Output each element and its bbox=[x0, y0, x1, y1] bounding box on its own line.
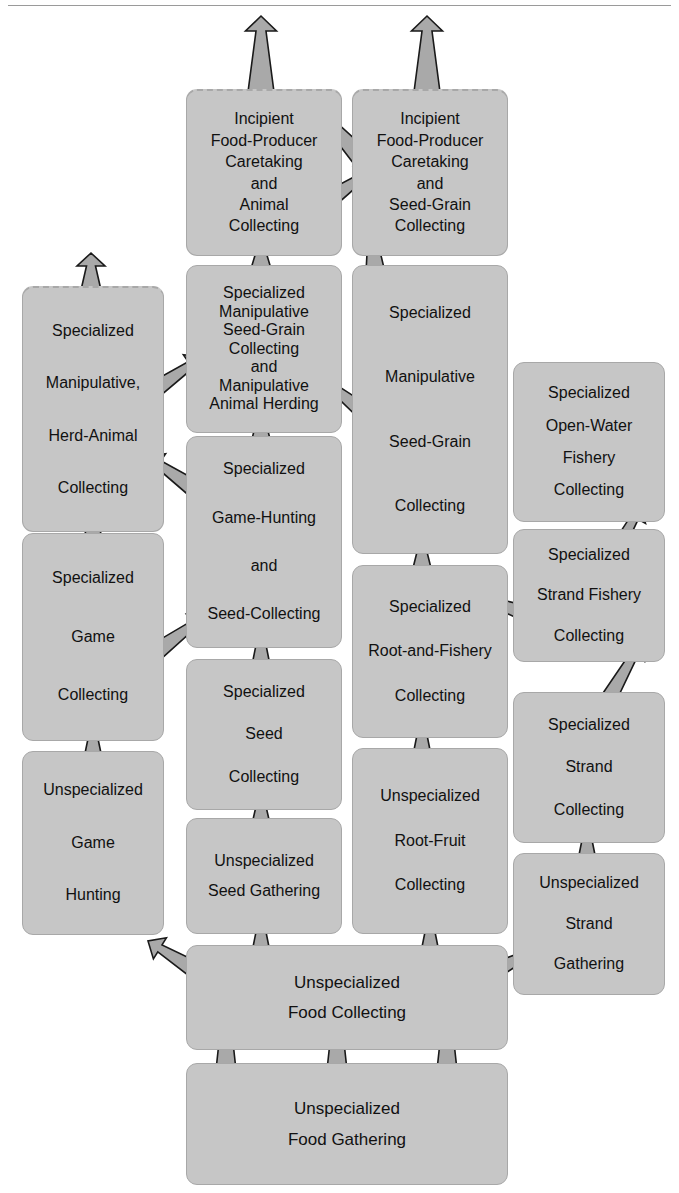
node-label-line: Incipient bbox=[400, 111, 460, 127]
node-label-line: Specialized bbox=[223, 285, 305, 301]
node-specialized-root-and-fishery-collecting: SpecializedRoot-and-FisheryCollecting bbox=[352, 565, 508, 738]
arrow-to-top-right-offpage bbox=[412, 16, 443, 92]
node-label-line: Gathering bbox=[554, 956, 624, 972]
node-label-line: Collecting bbox=[58, 687, 128, 703]
node-label-line: Strand Fishery bbox=[537, 587, 641, 603]
node-label-line: Incipient bbox=[234, 111, 294, 127]
node-label-line: Specialized bbox=[52, 323, 134, 339]
node-label-line: Specialized bbox=[223, 684, 305, 700]
node-label-line: Manipulative, bbox=[46, 375, 140, 391]
diagram-canvas: IncipientFood-ProducerCaretakingandAnima… bbox=[0, 0, 679, 1193]
arrow-herd-animal-to-offpage bbox=[77, 253, 105, 290]
node-label-line: Seed-Grain bbox=[389, 434, 471, 450]
node-label-line: Seed bbox=[245, 726, 282, 742]
node-label-line: Collecting bbox=[554, 482, 624, 498]
node-label-line: and bbox=[251, 558, 278, 574]
node-label-line: Specialized bbox=[389, 599, 471, 615]
node-unspecialized-seed-gathering: UnspecializedSeed Gathering bbox=[186, 818, 342, 934]
node-incipient-food-producer-seed-grain-collecting: IncipientFood-ProducerCaretakingandSeed-… bbox=[352, 89, 508, 256]
node-label-line: Collecting bbox=[229, 769, 299, 785]
node-label-line: Collecting bbox=[229, 341, 299, 357]
node-label-line: Unspecialized bbox=[214, 853, 314, 869]
node-specialized-open-water-fishery-collecting: SpecializedOpen-WaterFisheryCollecting bbox=[513, 362, 665, 522]
node-label-line: Game bbox=[71, 629, 115, 645]
node-label-line: Specialized bbox=[52, 570, 134, 586]
node-label-line: Strand bbox=[565, 759, 612, 775]
node-label-line: Specialized bbox=[548, 385, 630, 401]
node-label-line: Unspecialized bbox=[43, 782, 143, 798]
node-specialized-seed-collecting: SpecializedSeedCollecting bbox=[186, 659, 342, 810]
node-specialized-strand-collecting: SpecializedStrandCollecting bbox=[513, 692, 665, 843]
node-label-line: Strand bbox=[565, 916, 612, 932]
node-specialized-game-collecting: SpecializedGameCollecting bbox=[22, 533, 164, 741]
node-label-line: Unspecialized bbox=[294, 1100, 400, 1118]
node-specialized-manipulative-seed-grain-collecting: SpecializedManipulativeSeed-GrainCollect… bbox=[352, 265, 508, 554]
node-label-line: Specialized bbox=[548, 717, 630, 733]
node-label-line: Unspecialized bbox=[539, 875, 639, 891]
node-label-line: Manipulative bbox=[219, 378, 309, 394]
node-incipient-food-producer-animal-collecting: IncipientFood-ProducerCaretakingandAnima… bbox=[186, 89, 342, 256]
node-label-line: Seed-Grain bbox=[389, 197, 471, 213]
arrow-to-top-left-offpage bbox=[246, 16, 277, 92]
node-label-line: Specialized bbox=[389, 305, 471, 321]
node-label-line: Game-Hunting bbox=[212, 510, 316, 526]
node-label-line: Food Collecting bbox=[288, 1004, 406, 1022]
node-specialized-strand-fishery-collecting: SpecializedStrand FisheryCollecting bbox=[513, 529, 665, 662]
node-unspecialized-game-hunting: UnspecializedGameHunting bbox=[22, 751, 164, 935]
node-label-line: Seed-Grain bbox=[223, 322, 305, 338]
node-label-line: Open-Water bbox=[546, 418, 633, 434]
node-label-line: Manipulative bbox=[385, 369, 475, 385]
node-unspecialized-food-collecting: UnspecializedFood Collecting bbox=[186, 945, 508, 1050]
node-label-line: Caretaking bbox=[225, 154, 302, 170]
node-specialized-manipulative-herd-animal-collecting: SpecializedManipulative,Herd-AnimalColle… bbox=[22, 286, 164, 532]
node-label-line: Collecting bbox=[395, 688, 465, 704]
node-label-line: Collecting bbox=[554, 628, 624, 644]
node-unspecialized-food-gathering: UnspecializedFood Gathering bbox=[186, 1063, 508, 1185]
node-label-line: Unspecialized bbox=[294, 974, 400, 992]
node-label-line: Seed Gathering bbox=[208, 883, 320, 899]
node-specialized-manipulative-seed-grain-collecting-and-animal-herding: SpecializedManipulativeSeed-GrainCollect… bbox=[186, 265, 342, 433]
node-label-line: Food-Producer bbox=[377, 133, 484, 149]
node-label-line: Animal Herding bbox=[209, 396, 318, 412]
node-label-line: Animal bbox=[240, 197, 289, 213]
node-label-line: Food-Producer bbox=[211, 133, 318, 149]
node-label-line: Manipulative bbox=[219, 304, 309, 320]
node-label-line: Seed-Collecting bbox=[208, 606, 321, 622]
node-label-line: Food Gathering bbox=[288, 1131, 406, 1149]
node-label-line: Specialized bbox=[223, 461, 305, 477]
node-label-line: Collecting bbox=[58, 480, 128, 496]
node-label-line: Fishery bbox=[563, 450, 615, 466]
node-label-line: Caretaking bbox=[391, 154, 468, 170]
node-label-line: Hunting bbox=[65, 887, 120, 903]
node-label-line: Collecting bbox=[395, 218, 465, 234]
node-label-line: Collecting bbox=[554, 802, 624, 818]
node-label-line: Root-Fruit bbox=[394, 833, 465, 849]
node-unspecialized-root-fruit-collecting: UnspecializedRoot-FruitCollecting bbox=[352, 748, 508, 934]
node-label-line: Collecting bbox=[395, 498, 465, 514]
node-label-line: Root-and-Fishery bbox=[368, 643, 492, 659]
node-label-line: Collecting bbox=[229, 218, 299, 234]
node-unspecialized-strand-gathering: UnspecializedStrandGathering bbox=[513, 853, 665, 995]
node-specialized-game-hunting-and-seed-collecting: SpecializedGame-HuntingandSeed-Collectin… bbox=[186, 436, 342, 648]
node-label-line: Specialized bbox=[548, 547, 630, 563]
node-label-line: Game bbox=[71, 835, 115, 851]
node-label-line: Unspecialized bbox=[380, 788, 480, 804]
node-label-line: and bbox=[417, 176, 444, 192]
node-label-line: and bbox=[251, 176, 278, 192]
node-label-line: Herd-Animal bbox=[49, 428, 138, 444]
node-label-line: and bbox=[251, 359, 278, 375]
node-label-line: Collecting bbox=[395, 877, 465, 893]
